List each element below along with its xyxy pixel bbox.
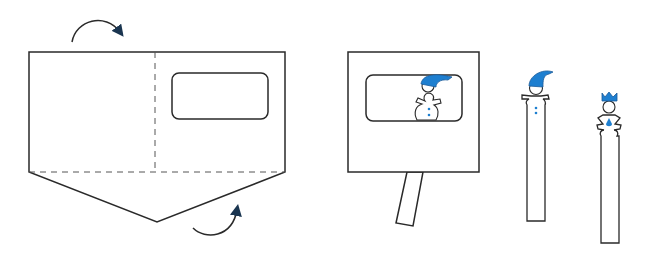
fold-template (29, 21, 285, 235)
theatre-window (366, 75, 462, 121)
assembled-theatre (348, 52, 479, 226)
crown (602, 92, 617, 101)
window-cutout (172, 73, 268, 119)
queen-body-stick (597, 115, 621, 243)
blue-hat (529, 71, 553, 87)
queen-puppet (597, 92, 621, 243)
snowman-puppet (522, 71, 553, 221)
queen-head (603, 101, 615, 113)
fold-arrow-top-icon (72, 21, 120, 42)
diagram-canvas (0, 0, 653, 260)
handle-stick (396, 172, 423, 226)
fold-arrow-bottom-icon (193, 210, 237, 235)
